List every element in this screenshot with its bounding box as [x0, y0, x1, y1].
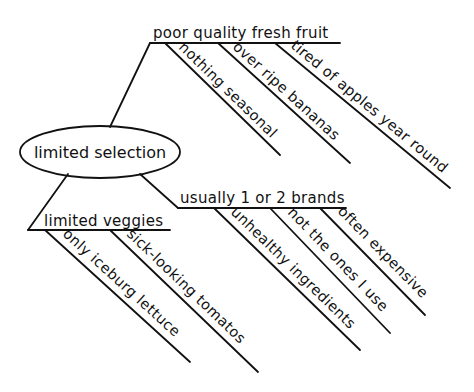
branch-poor-quality-fresh-fruit: poor quality fresh fruit nothing seasona… — [110, 24, 451, 188]
connector-line — [140, 174, 178, 208]
center-label: limited selection — [34, 143, 166, 162]
spoke-label: over ripe bananas — [230, 38, 343, 143]
spoke-label: nothing seasonal — [176, 39, 281, 141]
spoke-label: sick-looking tomatos — [124, 226, 249, 347]
spoke-only-iceburg-lettuce: only iceburg lettuce — [45, 225, 190, 362]
branch-label: usually 1 or 2 brands — [180, 189, 345, 207]
spoke-nothing-seasonal: nothing seasonal — [165, 39, 280, 155]
mind-map-canvas: limited selection poor quality fresh fru… — [0, 0, 474, 392]
spoke-label: often expensive — [335, 203, 432, 301]
spoke-line — [275, 43, 450, 188]
branch-label: limited veggies — [44, 212, 163, 230]
branch-usually-1-or-2-brands: usually 1 or 2 brands unhealthy ingredie… — [140, 174, 432, 350]
connector-line — [110, 43, 150, 127]
spoke-line — [45, 230, 190, 362]
spoke-label: not the ones I use — [285, 204, 392, 314]
center-node: limited selection — [20, 126, 180, 178]
